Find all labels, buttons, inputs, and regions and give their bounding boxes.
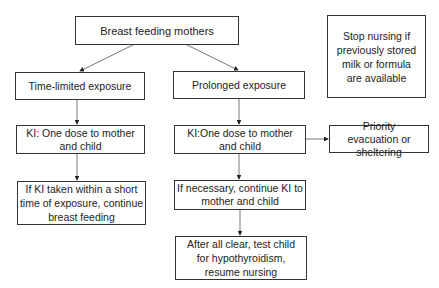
edge-root-prolonged <box>185 44 238 70</box>
node-label: If KI taken within a short time of expos… <box>19 182 144 224</box>
node-continue-ki: If necessary, continue KI to mother and … <box>174 180 306 210</box>
node-label: If necessary, continue KI to mother and … <box>176 182 304 208</box>
node-ki-one-dose-right: KI:One dose to mother and child <box>174 125 306 154</box>
edge-root-timelimited <box>80 44 135 71</box>
node-label: KI: One dose to mother and child <box>25 127 136 153</box>
node-label: KI:One dose to mother and child <box>183 127 297 153</box>
node-priority-evacuation: Priority evacuation or sheltering <box>329 125 429 153</box>
node-breast-feeding-mothers: Breast feeding mothers <box>75 16 239 45</box>
node-label: Breast feeding mothers <box>100 24 214 38</box>
node-label: Time-limited exposure <box>29 79 132 93</box>
node-label: After all clear, test child for hypothyr… <box>186 237 296 279</box>
node-label: Priority evacuation or sheltering <box>336 120 422 159</box>
note-label: Stop nursing if previously stored milk o… <box>334 29 419 85</box>
node-ki-one-dose-left: KI: One dose to mother and child <box>16 125 145 154</box>
node-after-all-clear: After all clear, test child for hypothyr… <box>175 236 307 280</box>
node-continue-breast-feeding: If KI taken within a short time of expos… <box>17 181 146 225</box>
note-stop-nursing: Stop nursing if previously stored milk o… <box>327 15 426 98</box>
node-label: Prolonged exposure <box>192 78 286 92</box>
node-prolonged-exposure: Prolonged exposure <box>173 71 305 99</box>
node-time-limited-exposure: Time-limited exposure <box>15 72 145 100</box>
